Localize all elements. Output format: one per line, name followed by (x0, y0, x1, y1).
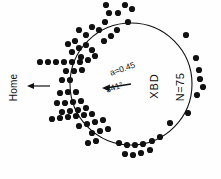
data-point (185, 110, 191, 116)
data-point (130, 152, 136, 158)
data-point (71, 68, 77, 74)
data-point (53, 59, 59, 65)
data-point (65, 114, 71, 120)
data-point (147, 147, 153, 153)
data-point (102, 19, 108, 25)
data-point (167, 120, 173, 126)
data-point (108, 33, 114, 39)
data-point (65, 41, 71, 47)
data-point (73, 113, 79, 119)
data-point (138, 150, 144, 156)
home-direction-group (27, 83, 50, 89)
data-point (132, 142, 138, 148)
data-point (75, 107, 81, 113)
data-point (89, 111, 95, 117)
data-point (196, 67, 202, 73)
data-point (79, 67, 85, 73)
data-point (115, 10, 121, 16)
data-point (193, 55, 199, 61)
data-point (122, 2, 128, 8)
data-point (57, 115, 63, 121)
data-point (76, 123, 82, 129)
data-point (116, 140, 122, 146)
data-point (194, 92, 200, 98)
data-point (89, 24, 95, 30)
data-point (63, 68, 69, 74)
data-point (100, 117, 106, 123)
home-direction-label: Home (8, 67, 19, 109)
data-point (61, 59, 67, 65)
data-point (81, 112, 87, 118)
data-point (76, 27, 82, 33)
data-point (103, 2, 109, 8)
data-point (70, 99, 76, 105)
data-point (67, 108, 73, 114)
data-point (122, 151, 128, 157)
data-point (124, 142, 130, 148)
data-point (57, 90, 63, 96)
data-point (65, 89, 71, 95)
data-point (67, 77, 73, 83)
data-point (197, 76, 203, 82)
data-point (106, 10, 112, 16)
data-point (157, 134, 163, 140)
data-point (37, 59, 43, 65)
data-point (92, 53, 98, 59)
data-point (76, 45, 82, 51)
data-point (89, 130, 95, 136)
data-point (59, 77, 65, 83)
data-point (114, 27, 120, 33)
data-point (140, 141, 146, 147)
data-point (85, 140, 91, 146)
data-point (101, 38, 107, 44)
data-point (89, 47, 95, 53)
data-point (45, 59, 51, 65)
data-point (125, 19, 131, 25)
data-point (84, 121, 90, 127)
data-point (200, 84, 206, 90)
data-point (72, 38, 78, 44)
data-point (85, 57, 91, 63)
data-point (73, 89, 79, 95)
data-point (83, 105, 89, 111)
home-arrow-head (27, 83, 34, 89)
data-point (93, 138, 99, 144)
data-point (62, 100, 68, 106)
data-point (149, 138, 155, 144)
data-point (49, 116, 55, 122)
data-point (77, 59, 83, 65)
data-point (183, 32, 189, 38)
data-point (78, 98, 84, 104)
sample-size-label: N=75 (174, 66, 186, 108)
data-point (83, 32, 89, 38)
data-point (105, 126, 111, 132)
data-point (83, 42, 89, 48)
data-point (92, 119, 98, 125)
data-point (69, 59, 75, 65)
data-point (59, 109, 65, 115)
data-point (54, 100, 60, 106)
data-point (97, 128, 103, 134)
data-point (69, 49, 75, 55)
group-label: XBD (148, 66, 160, 106)
data-point (129, 6, 135, 12)
data-point (96, 27, 102, 33)
